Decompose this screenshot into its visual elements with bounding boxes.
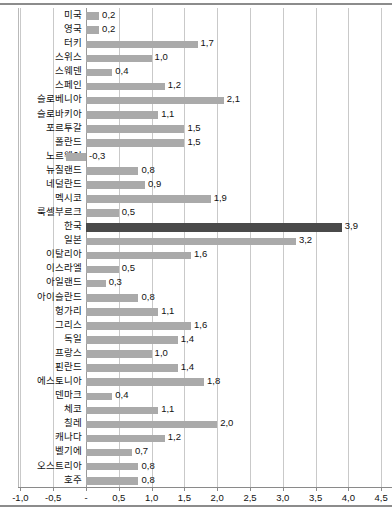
bar-value-label: 2,0 — [220, 416, 233, 430]
bar-row: 노르웨이-0,3 — [0, 149, 392, 163]
bar-row: 체코1,1 — [0, 402, 392, 416]
tick-label: 4,5 — [375, 492, 388, 503]
bar-row: 독일1,4 — [0, 332, 392, 346]
bar — [86, 336, 178, 344]
bar-value-label: 1,1 — [161, 107, 174, 121]
bar-value-label: 1,1 — [161, 304, 174, 318]
bar — [86, 280, 106, 288]
bar-row: 핀란드1,4 — [0, 360, 392, 374]
bar-value-label: 0,7 — [135, 444, 148, 458]
category-label: 그리스 — [0, 318, 82, 332]
tick-mark — [316, 487, 317, 491]
bar-row: 멕시코1,9 — [0, 191, 392, 205]
bar — [86, 266, 119, 274]
bar-row: 프랑스1,0 — [0, 346, 392, 360]
bar-chart: 미국0,2영국0,2터키1,7스위스1,0스웨덴0,4스페인1,2슬로베니아2,… — [0, 0, 392, 517]
bar-value-label: 1,6 — [194, 247, 207, 261]
figure-bottom-rule — [0, 505, 392, 507]
category-label: 영국 — [0, 22, 82, 36]
bar-value-label: 0,5 — [122, 261, 135, 275]
category-label: 슬로바키아 — [0, 107, 82, 121]
bar-value-label: 1,2 — [168, 430, 181, 444]
bar-value-label: 1,4 — [181, 332, 194, 346]
bar — [86, 111, 158, 119]
bar — [86, 167, 138, 175]
bar-value-label: 1,9 — [214, 191, 227, 205]
bar — [86, 421, 217, 429]
tick-mark — [86, 487, 87, 491]
category-label: 캐나다 — [0, 430, 82, 444]
category-label: 에스토니아 — [0, 374, 82, 388]
bar — [86, 181, 145, 189]
bar — [86, 69, 112, 77]
bar-value-label: 2,1 — [227, 92, 240, 106]
bar-value-label: 0,4 — [115, 64, 128, 78]
bar-row: 에스토니아1,8 — [0, 374, 392, 388]
bar-row: 영국0,2 — [0, 22, 392, 36]
category-label: 프랑스 — [0, 346, 82, 360]
category-label: 벨기에 — [0, 444, 82, 458]
category-label: 룩셀부르크 — [0, 205, 82, 219]
category-label: 스위스 — [0, 50, 82, 64]
tick-mark — [217, 487, 218, 491]
bar-value-label: 0,9 — [148, 177, 161, 191]
category-label: 독일 — [0, 332, 82, 346]
bar — [86, 364, 178, 372]
bar-value-label: 3,9 — [345, 219, 358, 233]
category-label: 폴란드 — [0, 135, 82, 149]
bar-row: 이탈리아1,6 — [0, 247, 392, 261]
bar — [86, 97, 224, 105]
tick-mark — [119, 487, 120, 491]
bar-row: 헝가리1,1 — [0, 304, 392, 318]
bar — [86, 223, 342, 231]
tick-mark — [348, 487, 349, 491]
bar-row: 오스트리아0,8 — [0, 459, 392, 473]
category-label: 호주 — [0, 473, 82, 487]
category-label: 슬로베니아 — [0, 92, 82, 106]
bar-row: 룩셀부르크0,5 — [0, 205, 392, 219]
bar-row: 뉴질랜드0,8 — [0, 163, 392, 177]
bar — [86, 350, 152, 358]
tick-label: 1,5 — [178, 492, 191, 503]
bar-value-label: 1,1 — [161, 402, 174, 416]
bar-row: 벨기에0,7 — [0, 444, 392, 458]
tick-label: -0,5 — [45, 492, 61, 503]
bar-row: 포르투갈1,5 — [0, 121, 392, 135]
tick-label: 0,5 — [112, 492, 125, 503]
bar — [86, 139, 184, 147]
tick-label: 2,0 — [211, 492, 224, 503]
bar-value-label: 1,0 — [155, 50, 168, 64]
bar-value-label: 1,0 — [155, 346, 168, 360]
bar-value-label: 3,2 — [299, 233, 312, 247]
tick-mark — [283, 487, 284, 491]
bar-row: 스위스1,0 — [0, 50, 392, 64]
bar-rows: 미국0,2영국0,2터키1,7스위스1,0스웨덴0,4스페인1,2슬로베니아2,… — [0, 8, 392, 487]
bar-value-label: -0,3 — [89, 149, 105, 163]
bar-value-label: 0,8 — [141, 163, 154, 177]
bar-value-label: 0,4 — [115, 388, 128, 402]
tick-mark — [53, 487, 54, 491]
bar — [86, 393, 112, 401]
category-label: 한국 — [0, 219, 82, 233]
bar-row: 칠레2,0 — [0, 416, 392, 430]
bar — [86, 308, 158, 316]
bar-row: 이스라엘0,5 — [0, 261, 392, 275]
tick-mark — [381, 487, 382, 491]
bar — [86, 209, 119, 217]
category-label: 미국 — [0, 8, 82, 22]
bar-row: 네덜란드0,9 — [0, 177, 392, 191]
tick-label: 3,5 — [309, 492, 322, 503]
category-label: 스페인 — [0, 78, 82, 92]
bar-value-label: 1,7 — [201, 36, 214, 50]
bar — [86, 238, 296, 246]
tick-label: 4,0 — [342, 492, 355, 503]
bar-value-label: 1,5 — [187, 135, 200, 149]
bar — [86, 435, 165, 443]
tick-label: - — [84, 492, 87, 503]
bar-value-label: 1,2 — [168, 78, 181, 92]
bar — [86, 83, 165, 91]
category-label: 이스라엘 — [0, 261, 82, 275]
category-label: 아이슬란드 — [0, 290, 82, 304]
bar-row: 호주0,8 — [0, 473, 392, 487]
bar-value-label: 0,8 — [141, 459, 154, 473]
